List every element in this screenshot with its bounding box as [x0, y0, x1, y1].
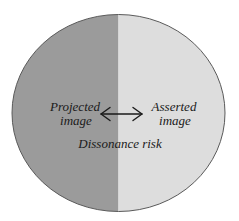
- asserted-label-line1: Asserted: [151, 99, 197, 114]
- asserted-image-label: Asserted: [151, 99, 197, 114]
- dissonance-risk-diagram: Projected image Asserted image Dissonanc…: [0, 0, 239, 221]
- asserted-image-label-line2: image: [159, 113, 191, 128]
- asserted-label-line2: image: [159, 113, 191, 128]
- projected-label-line1: Projected: [49, 99, 101, 114]
- projected-image-label-line2: image: [60, 113, 92, 128]
- projected-label-line2: image: [60, 113, 92, 128]
- projected-image-label: Projected: [49, 99, 101, 114]
- dissonance-risk-caption: Dissonance risk: [77, 136, 162, 151]
- dissonance-risk-text: Dissonance risk: [77, 136, 162, 151]
